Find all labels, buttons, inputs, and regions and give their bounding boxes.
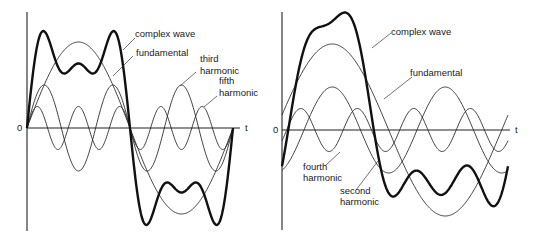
right-complex-leader	[372, 33, 391, 48]
right-fourth-label-1: fourth	[303, 161, 327, 172]
left-complex-label: complex wave	[135, 28, 195, 39]
right-second-label-1: second	[340, 185, 371, 196]
right-panel: 0 t complex wave fundamental fourth harm…	[273, 12, 518, 230]
left-origin-label: 0	[17, 122, 22, 133]
left-third-leader	[180, 72, 196, 86]
left-fundamental-label: fundamental	[136, 47, 188, 58]
harmonics-diagram: 0 t complex wave fundamental third harmo…	[0, 0, 536, 241]
left-fifth-label-1: fifth	[219, 75, 234, 86]
right-fundamental-leader	[384, 77, 412, 99]
right-fourth-label-2: harmonic	[303, 172, 342, 183]
left-third-label-1: third	[200, 53, 218, 64]
left-panel: 0 t complex wave fundamental third harmo…	[17, 12, 258, 231]
right-origin-label: 0	[273, 124, 278, 135]
right-second-label-2: harmonic	[340, 196, 379, 207]
right-fundamental-label: fundamental	[410, 67, 462, 78]
right-complex-label: complex wave	[391, 26, 451, 37]
left-t-label: t	[245, 122, 248, 133]
right-t-label: t	[515, 124, 518, 135]
left-fifth-label-2: harmonic	[219, 87, 258, 98]
left-complex-leader	[123, 38, 135, 50]
left-fifth-leader	[204, 96, 217, 107]
